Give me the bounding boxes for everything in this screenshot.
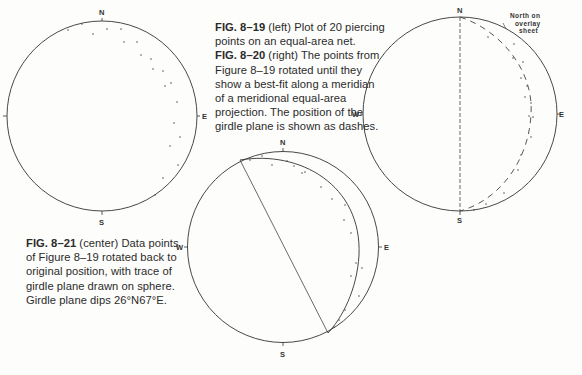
data-point xyxy=(249,159,251,161)
overlay-note-line-3: sheet xyxy=(519,27,538,34)
data-point xyxy=(350,232,352,234)
data-point xyxy=(162,70,164,72)
data-point xyxy=(286,160,288,162)
data-point xyxy=(344,204,346,206)
data-point xyxy=(343,219,345,221)
fig-8-21-net: N S E W xyxy=(176,138,389,359)
data-point xyxy=(164,85,166,87)
data-point xyxy=(358,295,360,297)
data-point xyxy=(361,267,363,269)
data-point xyxy=(320,186,322,188)
north-label: N xyxy=(99,8,104,17)
data-point xyxy=(92,33,94,35)
data-point xyxy=(140,54,142,56)
data-point xyxy=(355,262,357,264)
data-point xyxy=(473,209,475,211)
data-point xyxy=(522,61,524,63)
rotated-points xyxy=(473,36,534,211)
primitive-circle xyxy=(7,21,197,211)
data-point xyxy=(271,164,273,166)
data-point xyxy=(177,164,179,166)
data-point xyxy=(485,203,487,205)
east-label: E xyxy=(384,243,389,252)
east-label: E xyxy=(559,110,564,119)
data-point xyxy=(179,136,181,138)
caption-fig-8-21: FIG. 8–21 (center) Data points of Figure… xyxy=(26,236,186,307)
data-point xyxy=(524,96,526,98)
data-point xyxy=(152,68,154,70)
data-point xyxy=(304,171,306,173)
data-point xyxy=(169,145,171,147)
piercing-points xyxy=(67,23,181,196)
data-point xyxy=(517,169,519,171)
data-point xyxy=(513,43,515,45)
south-label: S xyxy=(457,216,462,225)
caption-fig-8-20: FIG. 8–20 (right) The points from Figure… xyxy=(215,48,385,133)
east-label: E xyxy=(202,112,207,121)
girdle-strike-line xyxy=(240,160,328,333)
data-point xyxy=(530,102,532,104)
caption-label: FIG. 8–19 xyxy=(215,21,265,33)
data-point xyxy=(150,58,152,60)
data-point xyxy=(67,29,69,31)
data-point xyxy=(176,101,178,103)
data-point xyxy=(532,116,534,118)
data-point xyxy=(293,165,295,167)
data-point xyxy=(81,23,83,25)
data-point xyxy=(512,57,514,59)
data-point xyxy=(333,326,335,328)
data-point xyxy=(520,77,522,79)
caption-fig-8-19: FIG. 8–19 (left) Plot of 20 piercing poi… xyxy=(215,20,385,48)
girdle-plane-trace xyxy=(240,158,359,333)
data-point xyxy=(520,154,522,156)
data-point xyxy=(487,36,489,38)
south-label: S xyxy=(99,218,104,227)
caption-fig-8-19-8-20: FIG. 8–19 (left) Plot of 20 piercing poi… xyxy=(215,20,385,134)
girdle-plane-dashes xyxy=(460,17,531,211)
data-point xyxy=(301,172,303,174)
data-point xyxy=(338,319,340,321)
data-point xyxy=(331,198,333,200)
data-point xyxy=(120,28,122,30)
south-label: S xyxy=(280,350,285,359)
data-point xyxy=(123,41,125,43)
data-point xyxy=(170,82,172,84)
data-point xyxy=(173,122,175,124)
data-point xyxy=(528,115,530,117)
caption-text: (right) The points from Figure 8–19 rota… xyxy=(215,49,379,132)
caption-label: FIG. 8–20 xyxy=(215,49,265,61)
data-point xyxy=(261,155,263,157)
restored-points xyxy=(249,155,363,328)
data-point xyxy=(154,194,156,196)
north-label: N xyxy=(457,6,462,15)
caption-label: FIG. 8–21 xyxy=(26,237,76,249)
data-point xyxy=(350,275,352,277)
north-label: N xyxy=(280,138,285,147)
fig-8-19-net: N S E xyxy=(3,8,207,227)
data-point xyxy=(106,28,108,30)
overlay-note-line-1: North on xyxy=(510,12,540,19)
data-point xyxy=(136,41,138,43)
data-point xyxy=(503,192,505,194)
data-point xyxy=(162,177,164,179)
primitive-circle xyxy=(188,152,379,343)
data-point xyxy=(344,309,346,311)
data-point xyxy=(530,136,532,138)
data-point xyxy=(526,85,528,87)
